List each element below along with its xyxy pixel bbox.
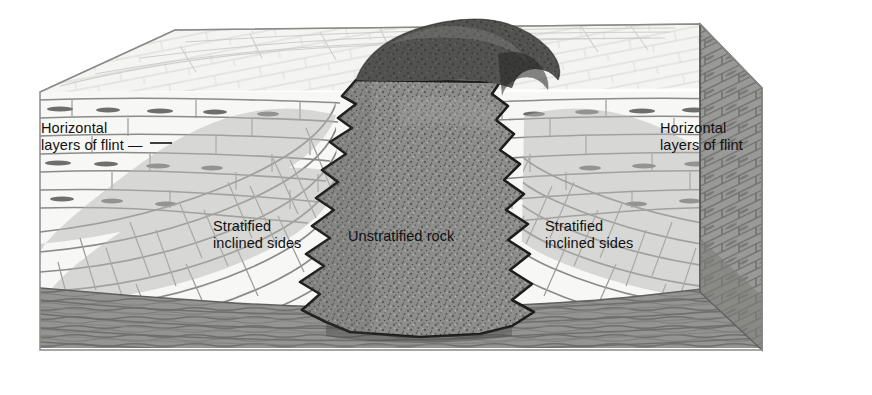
geology-block-diagram [0, 0, 872, 395]
figure-container: Horizontallayers of flint — Horizontalla… [0, 0, 872, 395]
block-right-side-face [700, 24, 762, 350]
